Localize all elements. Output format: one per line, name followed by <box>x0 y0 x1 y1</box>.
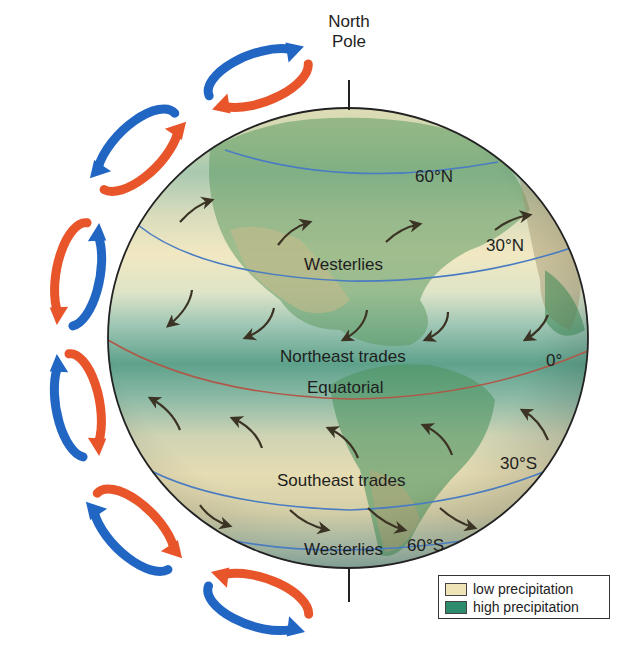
belt-label-westerlies-south: Westerlies <box>304 541 383 558</box>
latitude-label-0: 0° <box>546 352 562 369</box>
belt-label-westerlies-north: Westerlies <box>304 256 383 273</box>
belt-label-equatorial: Equatorial <box>307 379 384 396</box>
latitude-label-60s: 60°S <box>407 537 444 554</box>
legend-label-low: low precipitation <box>473 581 573 597</box>
legend-swatch-high <box>445 601 467 614</box>
legend-item-low-precipitation: low precipitation <box>445 580 603 598</box>
belt-label-southeast-trades: Southeast trades <box>277 472 406 489</box>
latitude-label-30s: 30°S <box>500 455 537 472</box>
cropped-caption-area <box>0 648 640 667</box>
north-pole-label-line2: Pole <box>314 32 384 52</box>
north-pole-label-line1: North <box>314 12 384 32</box>
legend-item-high-precipitation: high precipitation <box>445 598 603 616</box>
latitude-label-60n: 60°N <box>415 168 453 185</box>
precipitation-legend: low precipitation high precipitation <box>438 575 610 619</box>
north-pole-label: North Pole <box>314 12 384 52</box>
latitude-label-30n: 30°N <box>486 237 524 254</box>
hadley-cell-south <box>47 348 109 462</box>
legend-label-high: high precipitation <box>473 599 579 615</box>
globe-illustration <box>0 0 640 667</box>
legend-swatch-low <box>445 583 467 596</box>
circulation-diagram: North Pole 60°N 30°N 0° 30°S 60°S Wester… <box>0 0 640 667</box>
globe-surface <box>100 100 600 580</box>
polar-cell-north <box>199 36 317 120</box>
polar-cell-south <box>199 562 317 643</box>
belt-label-northeast-trades: Northeast trades <box>280 348 406 365</box>
hadley-cell-north <box>47 217 109 331</box>
